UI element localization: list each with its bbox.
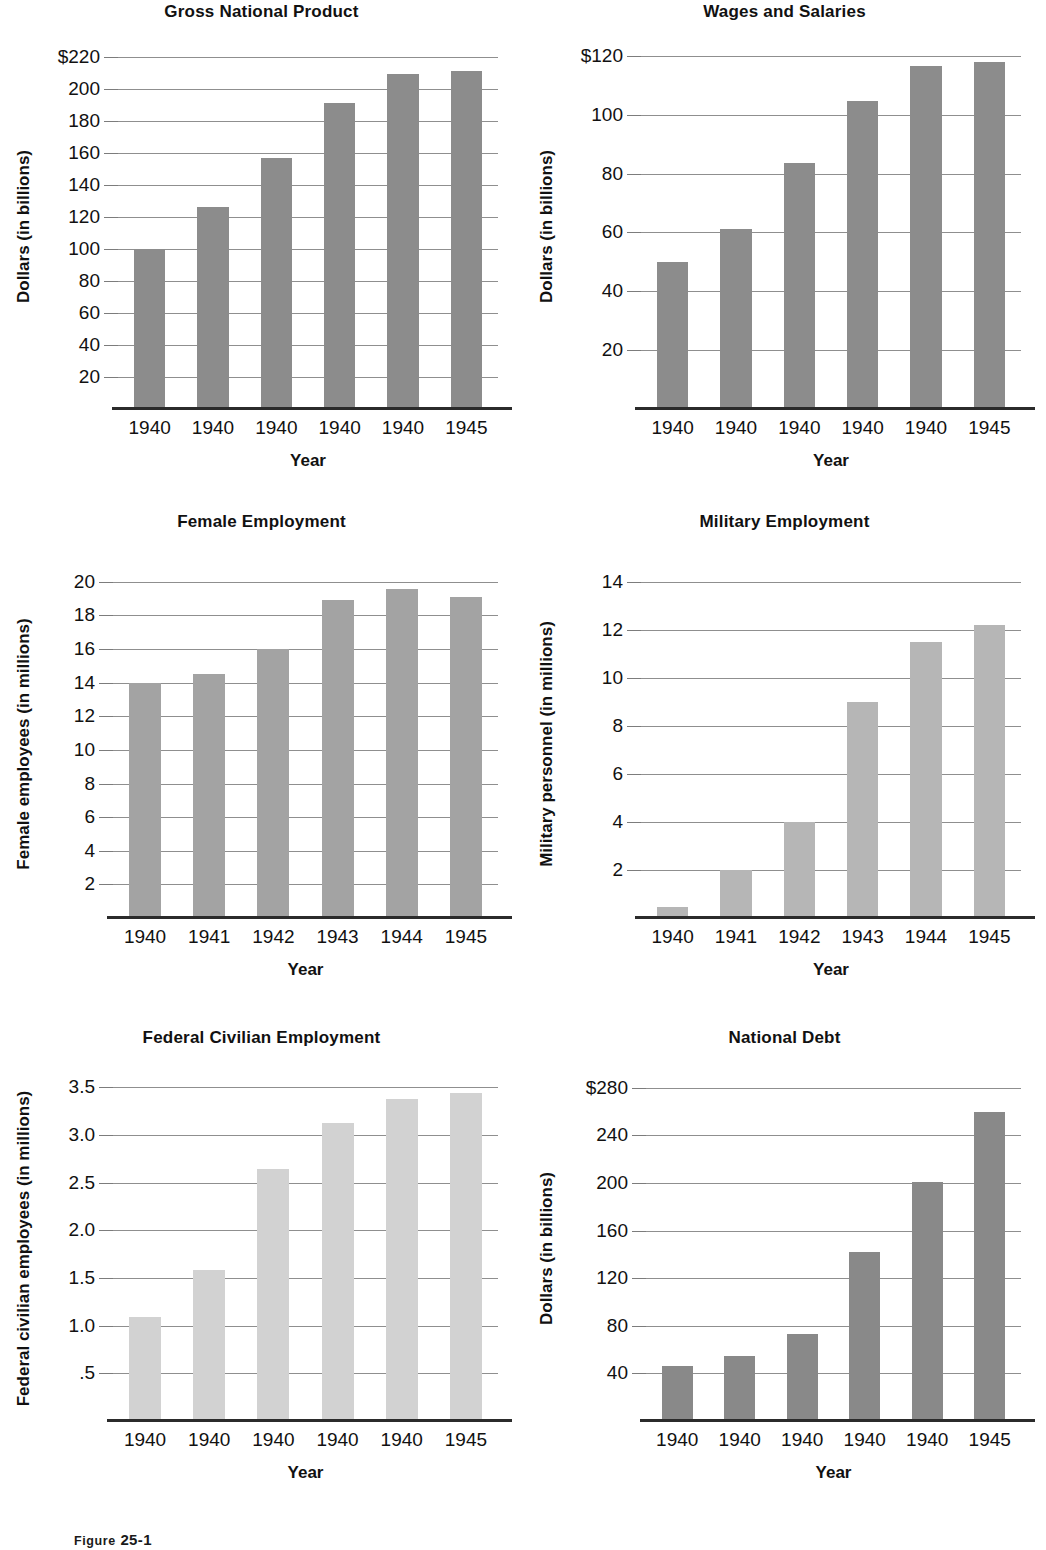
figure-sheet: Gross National Product204060801001201401… bbox=[0, 0, 1046, 1550]
bar-slot: 1942 bbox=[257, 570, 289, 918]
x-axis-tick-label: 1945 bbox=[946, 1429, 1033, 1451]
y-tick-mark bbox=[99, 1230, 113, 1231]
chart-panel-national-debt: National Debt4080120160200240$2801940194… bbox=[523, 1028, 1046, 1528]
x-axis-tick-label: 1945 bbox=[946, 926, 1034, 948]
y-axis-tick-label: 14 bbox=[74, 672, 95, 694]
y-axis-tick-label: 100 bbox=[591, 104, 623, 126]
y-axis-tick-label: 40 bbox=[607, 1362, 628, 1384]
bar bbox=[910, 642, 942, 918]
bar bbox=[193, 1270, 225, 1421]
y-tick-mark bbox=[627, 774, 641, 775]
y-tick-mark bbox=[627, 56, 641, 57]
y-axis-tick-label: 2 bbox=[84, 873, 95, 895]
y-axis-tick-label: 2.5 bbox=[69, 1172, 95, 1194]
y-tick-mark bbox=[627, 350, 641, 351]
bar-slot: 1940 bbox=[129, 1076, 161, 1421]
bar bbox=[847, 702, 879, 918]
bar bbox=[129, 683, 161, 918]
chart-panel-military-employment: Military Employment246810121419401941194… bbox=[523, 512, 1046, 1020]
bar-slot: 1940 bbox=[724, 1076, 755, 1421]
bar-slot: 1940 bbox=[193, 1076, 225, 1421]
y-tick-mark bbox=[99, 851, 113, 852]
bar bbox=[451, 71, 483, 409]
y-axis-tick-label: 18 bbox=[74, 604, 95, 626]
y-tick-mark bbox=[99, 1135, 113, 1136]
y-axis-tick-label: 1.5 bbox=[69, 1267, 95, 1289]
y-tick-mark bbox=[627, 291, 641, 292]
y-axis-title-military-employment: Military personnel (in millions) bbox=[537, 570, 557, 918]
bar-slot: 1942 bbox=[784, 570, 816, 918]
y-axis-tick-label: 10 bbox=[602, 667, 623, 689]
figure-caption-label: Figure bbox=[74, 1534, 116, 1548]
y-axis-tick-label: 2.0 bbox=[69, 1219, 95, 1241]
y-tick-mark bbox=[104, 313, 118, 314]
y-tick-mark bbox=[99, 683, 113, 684]
y-tick-mark bbox=[104, 185, 118, 186]
bar bbox=[257, 1169, 289, 1421]
chart-panel-federal-civilian-employment: Federal Civilian Employment.51.01.52.02.… bbox=[0, 1028, 523, 1528]
bar-slot: 1944 bbox=[386, 570, 418, 918]
bar bbox=[724, 1356, 755, 1421]
y-axis-tick-label: 80 bbox=[602, 163, 623, 185]
y-tick-mark bbox=[104, 121, 118, 122]
y-axis-tick-label: 140 bbox=[68, 174, 100, 196]
bar bbox=[193, 674, 225, 918]
bar-slot: 1940 bbox=[720, 44, 752, 409]
y-axis-tick-label: 240 bbox=[596, 1124, 628, 1146]
y-tick-mark bbox=[104, 153, 118, 154]
y-axis-tick-label: 3.5 bbox=[69, 1076, 95, 1098]
plot-area-military-employment: 2468101214194019411942194319441945 bbox=[641, 570, 1021, 918]
y-tick-mark bbox=[99, 1278, 113, 1279]
y-axis-tick-label: 60 bbox=[602, 221, 623, 243]
y-tick-mark bbox=[632, 1183, 646, 1184]
bar-slot: 1945 bbox=[974, 570, 1006, 918]
bar-slot: 1940 bbox=[912, 1076, 943, 1421]
bar-slot: 1940 bbox=[129, 570, 161, 918]
bar-slot: 1940 bbox=[134, 44, 166, 409]
y-axis-tick-label: 80 bbox=[79, 270, 100, 292]
y-axis-title-female-employment: Female employees (in millions) bbox=[14, 570, 34, 918]
x-axis-title-military-employment: Year bbox=[641, 960, 1021, 980]
bar-slot: 1940 bbox=[849, 1076, 880, 1421]
y-tick-mark bbox=[632, 1373, 646, 1374]
y-axis-title-national-debt: Dollars (in billions) bbox=[537, 1076, 557, 1421]
chart-title-national-debt: National Debt bbox=[523, 1028, 1046, 1048]
y-axis-tick-label: 8 bbox=[612, 715, 623, 737]
chart-title-federal-civilian-employment: Federal Civilian Employment bbox=[0, 1028, 523, 1048]
y-tick-mark bbox=[627, 870, 641, 871]
y-tick-mark bbox=[627, 115, 641, 116]
y-tick-mark bbox=[627, 678, 641, 679]
bar bbox=[386, 589, 418, 919]
x-axis-line bbox=[112, 407, 512, 410]
bar-slot: 1940 bbox=[847, 44, 879, 409]
bar bbox=[197, 207, 229, 409]
y-axis-tick-label: 160 bbox=[596, 1220, 628, 1242]
y-tick-mark bbox=[99, 615, 113, 616]
y-tick-mark bbox=[99, 582, 113, 583]
bar bbox=[387, 74, 419, 409]
bar bbox=[322, 600, 354, 918]
y-tick-mark bbox=[99, 716, 113, 717]
chart-panel-gross-national-product: Gross National Product204060801001201401… bbox=[0, 2, 523, 492]
x-axis-line bbox=[640, 1419, 1035, 1422]
bar-slot: 1943 bbox=[847, 570, 879, 918]
bar bbox=[386, 1099, 418, 1421]
y-tick-mark bbox=[632, 1135, 646, 1136]
bar-slot: 1940 bbox=[657, 44, 689, 409]
chart-title-military-employment: Military Employment bbox=[523, 512, 1046, 532]
y-tick-mark bbox=[632, 1326, 646, 1327]
y-axis-tick-label: 40 bbox=[602, 280, 623, 302]
y-tick-mark bbox=[632, 1088, 646, 1089]
x-axis-line bbox=[107, 916, 512, 919]
bar-slot: 1940 bbox=[657, 570, 689, 918]
bar-slot: 1945 bbox=[450, 1076, 482, 1421]
plot-area-federal-civilian-employment: .51.01.52.02.53.03.519401940194019401940… bbox=[113, 1076, 498, 1421]
y-axis-tick-label: 60 bbox=[79, 302, 100, 324]
y-tick-mark bbox=[99, 1326, 113, 1327]
y-tick-mark bbox=[627, 174, 641, 175]
y-tick-mark bbox=[104, 217, 118, 218]
figure-caption: Figure 25-1 bbox=[74, 1531, 152, 1548]
bar-slot: 1940 bbox=[387, 44, 419, 409]
y-axis-tick-label: 6 bbox=[84, 806, 95, 828]
y-axis-title-federal-civilian-employment: Federal civilian employees (in millions) bbox=[14, 1076, 34, 1421]
